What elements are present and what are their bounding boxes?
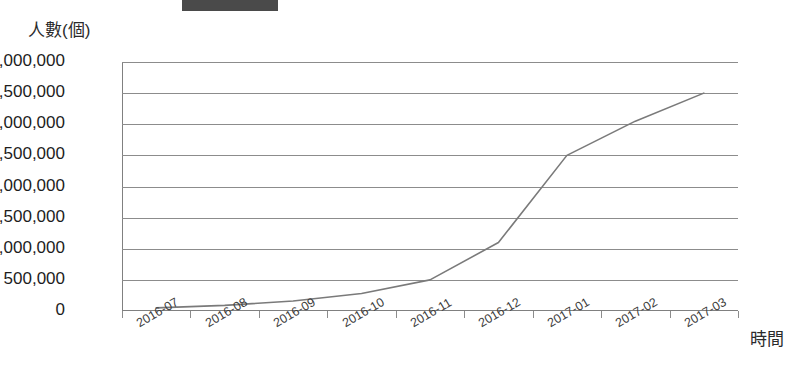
series-line-chart: [122, 62, 738, 311]
chart-title-row: [0, 0, 812, 14]
x-tick-mark: [327, 311, 328, 318]
x-tick-mark: [670, 311, 671, 318]
x-tick-mark: [533, 311, 534, 318]
x-axis-label: 時間: [750, 325, 784, 350]
plot-area: [122, 62, 738, 311]
x-tick-mark: [738, 311, 739, 318]
chart-page: 人數(個) 0500,0001,000,0001,500,0002,000,00…: [0, 0, 812, 382]
x-tick-mark: [396, 311, 397, 318]
x-tick-mark: [601, 311, 602, 318]
x-tick-mark: [464, 311, 465, 318]
x-tick-mark: [190, 311, 191, 318]
legend-color-swatch: [182, 0, 278, 11]
x-tick-mark: [122, 311, 123, 318]
x-tick-mark: [259, 311, 260, 318]
series-line: [156, 93, 704, 308]
y-axis-label: 人數(個): [28, 16, 90, 41]
